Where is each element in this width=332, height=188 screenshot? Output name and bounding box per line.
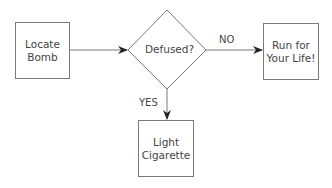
edge-label-no: NO xyxy=(219,34,234,45)
node-run-line1: Run for xyxy=(267,39,316,52)
node-light-cigarette: LightCigarette xyxy=(138,120,194,177)
node-run-line2: Your Life! xyxy=(267,52,316,65)
edge-label-yes: YES xyxy=(139,97,158,108)
node-light-line1: Light xyxy=(142,136,191,149)
node-light-line2: Cigarette xyxy=(142,149,191,162)
node-run-for-your-life: Run forYour Life! xyxy=(263,23,319,80)
node-locate-bomb-line2: Bomb xyxy=(25,51,60,64)
node-locate-bomb: LocateBomb xyxy=(15,22,70,79)
node-locate-bomb-line1: Locate xyxy=(25,38,60,51)
decision-label: Defused? xyxy=(145,43,194,55)
